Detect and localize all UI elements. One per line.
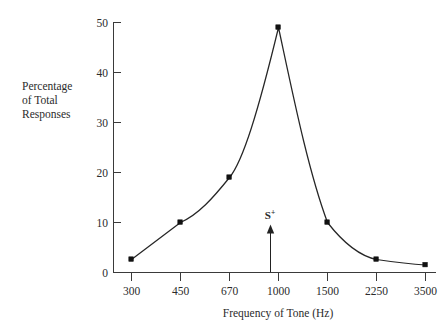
x-axis-title: Frequency of Tone (Hz) [223, 307, 334, 320]
y-tick-label-30: 30 [97, 117, 109, 129]
y-axis-title-line-2: of Total [22, 94, 58, 106]
x-tick-label-2250: 2250 [365, 285, 388, 297]
y-axis-title-line-3: Responses [22, 108, 71, 121]
data-point-1500 [325, 220, 330, 225]
chart-background [0, 0, 446, 330]
y-tick-label-20: 20 [97, 167, 109, 179]
data-point-450 [178, 220, 183, 225]
y-tick-label-10: 10 [97, 217, 109, 229]
generalization-gradient-chart: 50 40 30 20 10 0 300 450 670 1000 1500 2… [0, 0, 446, 330]
data-point-300 [129, 257, 134, 262]
y-tick-label-40: 40 [97, 67, 109, 79]
x-tick-label-450: 450 [172, 285, 190, 297]
data-point-1000 [276, 25, 281, 30]
s-plus-superscript: + [271, 208, 275, 217]
x-tick-label-300: 300 [123, 285, 141, 297]
x-tick-label-1500: 1500 [316, 285, 339, 297]
data-point-670 [227, 175, 232, 180]
x-tick-label-3500: 3500 [414, 285, 437, 297]
data-point-3500 [423, 262, 428, 267]
data-point-2250 [374, 257, 379, 262]
y-tick-label-0: 0 [102, 267, 108, 279]
y-tick-label-50: 50 [97, 17, 109, 29]
y-axis-title-line-1: Percentage [22, 80, 72, 93]
x-tick-label-1000: 1000 [267, 285, 290, 297]
x-tick-label-670: 670 [221, 285, 239, 297]
chart-figure: 50 40 30 20 10 0 300 450 670 1000 1500 2… [0, 0, 446, 330]
